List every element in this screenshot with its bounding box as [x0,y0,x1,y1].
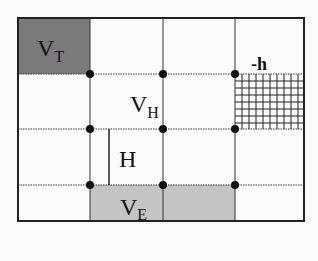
node [159,181,167,189]
node [159,70,167,78]
refined-mesh [235,74,304,129]
node [86,181,94,189]
diagram-canvas: VT VH H VE -h [0,0,318,261]
h-label: H [119,146,136,172]
node [231,181,239,189]
node [231,70,239,78]
vh-label: VH [130,91,159,121]
node [231,125,239,133]
node [86,125,94,133]
minus-h-label: -h [251,54,267,74]
node [86,70,94,78]
node [159,125,167,133]
